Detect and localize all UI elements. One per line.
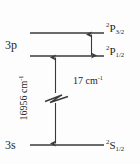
term-symbol-p12: 2P1/2: [106, 45, 124, 57]
shell-label-3s: 3s: [5, 139, 16, 151]
measurement-label-main-transition: 16956 cm-1: [19, 55, 29, 141]
term-p12-j: 1/2: [116, 51, 125, 58]
term-p32-j: 3/2: [116, 28, 125, 35]
energy-level-diagram: 3p 3s 2P3/2 2P1/2 2S1/2 17 cm-1 16956 cm…: [0, 0, 140, 164]
measurement-16956-exponent: -1: [17, 76, 24, 81]
axis-break-symbol: [45, 95, 68, 103]
measurement-17-text: 17 cm: [73, 75, 98, 86]
term-symbol-s12: 2S1/2: [106, 139, 124, 151]
term-s12-j: 1/2: [116, 145, 125, 152]
shell-label-3p: 3p: [5, 39, 17, 51]
measurement-16956-text: 16956 cm: [18, 81, 29, 121]
measurement-label-fine-splitting: 17 cm-1: [73, 76, 103, 86]
measurement-17-exponent: -1: [98, 74, 103, 81]
term-symbol-p32: 2P3/2: [106, 22, 124, 34]
